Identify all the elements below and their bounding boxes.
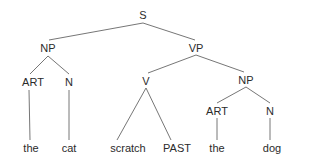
node-np-object: NP xyxy=(238,75,253,86)
node-n-object: N xyxy=(266,106,274,117)
node-art-subject: ART xyxy=(22,77,44,88)
edge-np2-art xyxy=(217,87,246,103)
leaf-the-subject: the xyxy=(23,143,38,154)
leaf-the-object: the xyxy=(209,143,224,154)
edge-vp-v xyxy=(148,55,196,73)
edge-np2-n xyxy=(246,87,270,103)
edge-v-past xyxy=(146,88,171,140)
edge-np-n xyxy=(48,56,69,74)
leaf-scratch: scratch xyxy=(110,143,145,154)
node-v: V xyxy=(142,76,149,87)
edge-np-art xyxy=(30,56,48,74)
leaf-dog: dog xyxy=(263,143,281,154)
edge-vp-np xyxy=(196,55,244,72)
node-np-subject: NP xyxy=(40,43,55,54)
node-n-subject: N xyxy=(65,77,73,88)
edge-v-scratch xyxy=(117,88,146,140)
edge-s-np xyxy=(49,23,143,40)
leaf-cat: cat xyxy=(62,143,77,154)
node-s: S xyxy=(139,10,146,21)
leaf-past: PAST xyxy=(163,143,191,154)
edge-s-vp xyxy=(143,23,195,40)
node-vp: VP xyxy=(189,43,204,54)
edge-art-the xyxy=(29,90,30,140)
node-art-object: ART xyxy=(206,106,228,117)
